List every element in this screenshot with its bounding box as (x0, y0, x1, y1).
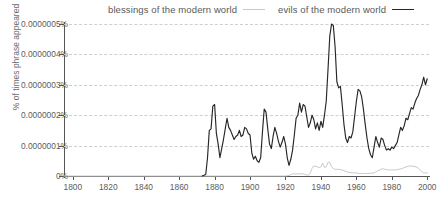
x-axis-tick-label: 1980 (372, 182, 412, 192)
legend-item-evils[interactable]: evils of the modern world (278, 0, 414, 18)
x-axis-tick-mark (285, 176, 286, 180)
series-line-blessings (64, 162, 427, 176)
x-axis-tick-label: 1940 (301, 182, 341, 192)
x-axis-tick-mark (144, 176, 145, 180)
ngram-chart: blessings of the modern world evils of t… (0, 0, 439, 200)
x-axis-tick-label: 1920 (265, 182, 305, 192)
plot-area (64, 24, 429, 176)
legend-swatch-blessings (243, 9, 265, 10)
x-axis-tick-label: 1800 (53, 182, 93, 192)
legend-item-blessings[interactable]: blessings of the modern world (108, 0, 265, 18)
x-axis-tick-label: 1840 (124, 182, 164, 192)
legend-swatch-evils (392, 9, 414, 10)
x-axis-tick-mark (250, 176, 251, 180)
legend-label-blessings: blessings of the modern world (108, 4, 237, 15)
x-axis-tick-label: 1860 (159, 182, 199, 192)
series-lines (64, 24, 429, 176)
chart-legend: blessings of the modern world evils of t… (0, 0, 439, 18)
x-axis-tick-mark (356, 176, 357, 180)
x-axis-tick-mark (179, 176, 180, 180)
series-line-evils (202, 24, 427, 176)
x-axis-tick-label: 1960 (336, 182, 376, 192)
x-axis-tick-mark (392, 176, 393, 180)
x-axis-tick-label: 1820 (88, 182, 128, 192)
x-axis-tick-mark (108, 176, 109, 180)
x-axis-tick-mark (427, 176, 428, 180)
x-axis-tick-label: 2000 (407, 182, 439, 192)
x-axis-tick-mark (215, 176, 216, 180)
x-axis-tick-label: 1880 (195, 182, 235, 192)
x-axis-tick-label: 1900 (230, 182, 270, 192)
legend-label-evils: evils of the modern world (278, 4, 386, 15)
x-axis-tick-mark (321, 176, 322, 180)
x-axis-tick-mark (73, 176, 74, 180)
